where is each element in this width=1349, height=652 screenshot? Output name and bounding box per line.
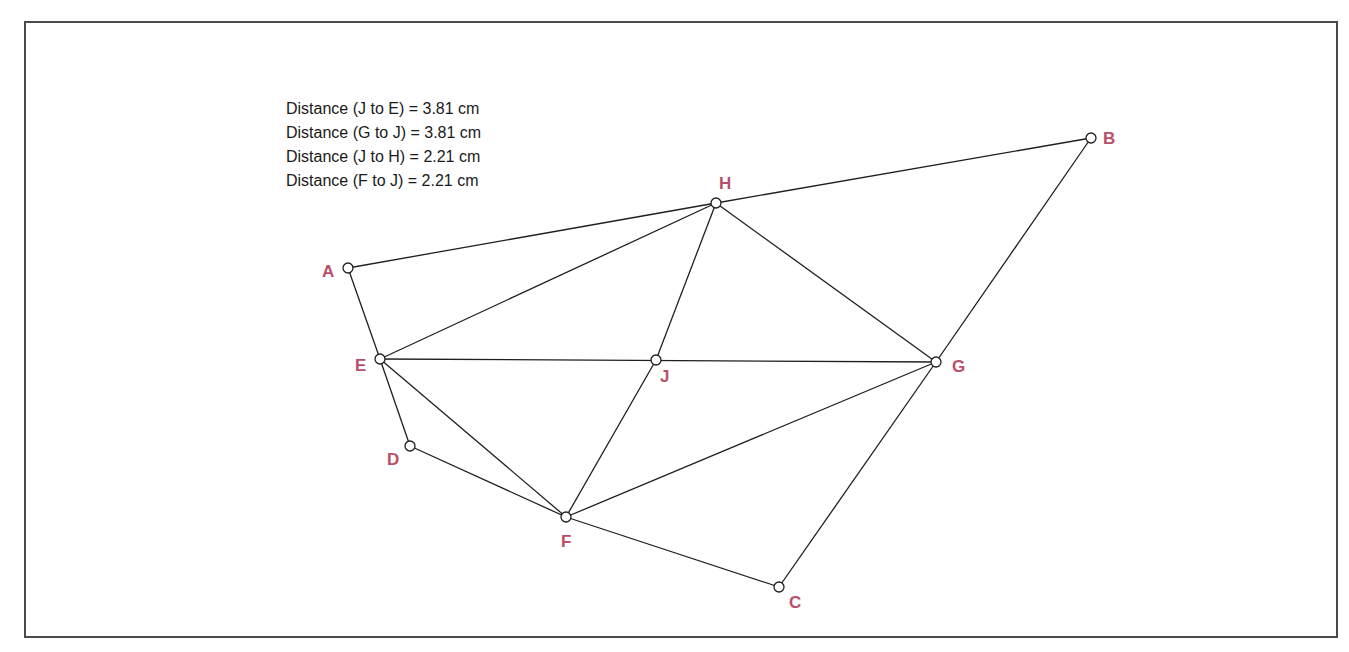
point-a[interactable] — [343, 263, 353, 273]
label-f: F — [561, 533, 571, 550]
point-b[interactable] — [1086, 133, 1096, 143]
segment-ae — [348, 268, 380, 359]
point-e[interactable] — [375, 354, 385, 364]
segment-bg — [936, 138, 1091, 362]
label-a: A — [322, 263, 334, 280]
point-c[interactable] — [774, 582, 784, 592]
label-c: C — [789, 594, 801, 611]
label-e: E — [355, 357, 366, 374]
geometry-canvas — [0, 0, 1349, 652]
segment-df — [410, 446, 566, 517]
points — [343, 133, 1096, 592]
segment-hb — [716, 138, 1091, 203]
label-j: J — [660, 368, 669, 385]
segment-cg — [779, 362, 936, 587]
point-f[interactable] — [561, 512, 571, 522]
segment-jf — [566, 360, 656, 517]
point-j[interactable] — [651, 355, 661, 365]
point-g[interactable] — [931, 357, 941, 367]
segment-hg — [716, 203, 936, 362]
point-h[interactable] — [711, 198, 721, 208]
segment-ah — [348, 203, 716, 268]
label-b: B — [1103, 130, 1115, 147]
segment-fc — [566, 517, 779, 587]
label-g: G — [952, 358, 965, 375]
label-d: D — [387, 451, 399, 468]
point-d[interactable] — [405, 441, 415, 451]
segment-fg — [566, 362, 936, 517]
label-h: H — [719, 175, 731, 192]
